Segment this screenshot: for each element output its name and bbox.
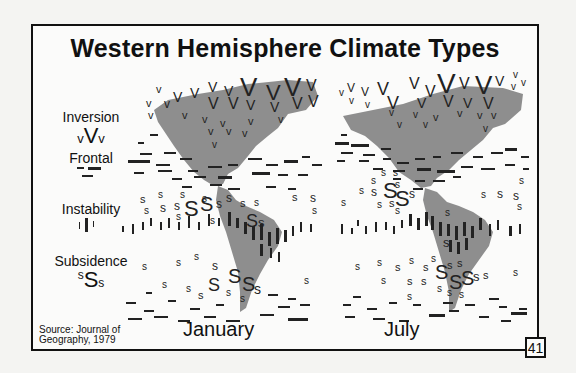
slide-frame: Western Hemisphere Climate Types Inversi… [31,24,539,351]
inversion-large-icon: V [84,123,99,148]
legend-instability-label: Instability [41,201,141,217]
legend-frontal-label: Frontal [41,150,141,166]
source-citation: Source: Journal of Geography, 1979 [39,325,120,345]
legend-subsidence-symbol: sSs [41,269,141,291]
inversion-small-icon: v [98,131,105,146]
map-july: v V V V V V V V V V v v v v v V V V V V … [333,76,538,316]
map-january: v V V V V V V V V v v V V V V V V v v v … [128,76,328,316]
legend-inversion-symbol: vVv [41,125,141,147]
map-label-january: January [183,318,254,341]
map-label-july: July [384,318,420,341]
subsidence-small-icon: s [98,276,104,290]
subsidence-large-icon: S [84,267,99,292]
page-number: 41 [525,337,546,358]
slide-title: Western Hemisphere Climate Types [33,34,537,63]
source-line-2: Geography, 1979 [39,335,120,345]
